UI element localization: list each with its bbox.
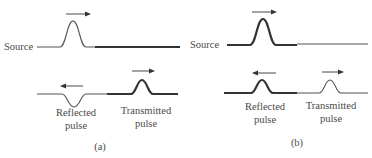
arrow-right-icon	[66, 12, 91, 17]
thin-string-transmitted-b	[297, 80, 368, 93]
transmitted-label-a-line2: pulse	[135, 118, 158, 129]
source-label-b: Source	[190, 39, 219, 50]
reflected-label-a-line2: pulse	[65, 120, 88, 131]
wave-reflection-diagram: Source Reflected pulse Transmitted pulse…	[0, 0, 372, 158]
transmitted-label-b: Transmitted	[306, 100, 357, 111]
arrow-right-icon	[322, 70, 344, 75]
thick-string-transmitted-a	[107, 80, 178, 94]
reflected-label-a: Reflected	[56, 107, 97, 118]
thin-string-incident-a	[37, 21, 95, 47]
reflected-label-b-line2: pulse	[254, 114, 277, 125]
thick-string-incident-b	[227, 19, 297, 45]
reflected-label-b: Reflected	[245, 101, 286, 112]
transmitted-label-a: Transmitted	[121, 105, 172, 116]
panel-b: Source Reflected pulse Transmitted pulse…	[190, 10, 368, 150]
source-label-a: Source	[4, 41, 33, 52]
arrow-left-icon	[60, 84, 83, 89]
caption-b: (b)	[291, 137, 304, 149]
transmitted-label-b-line2: pulse	[320, 113, 343, 124]
thick-string-reflected-b	[224, 80, 297, 93]
arrow-left-icon	[252, 71, 276, 76]
caption-a: (a)	[94, 141, 106, 153]
thin-string-reflected-a	[37, 94, 107, 107]
arrow-right-icon	[132, 69, 155, 74]
panel-a: Source Reflected pulse Transmitted pulse…	[4, 12, 180, 154]
arrow-right-icon	[252, 10, 277, 15]
